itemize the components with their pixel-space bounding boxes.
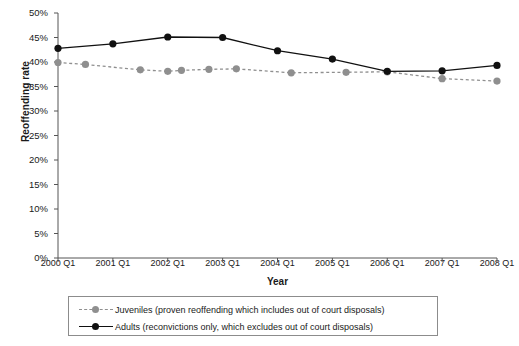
chart-legend: Juveniles (proven reoffending which incl… <box>68 296 438 336</box>
legend-key-adults <box>77 320 115 334</box>
legend-label-juveniles: Juveniles (proven reoffending which incl… <box>115 305 385 315</box>
legend-item-adults: Adults (reconvictions only, which exclud… <box>69 318 437 335</box>
legend-item-juveniles: Juveniles (proven reoffending which incl… <box>69 301 437 318</box>
legend-label-adults: Adults (reconvictions only, which exclud… <box>115 322 373 332</box>
legend-key-juveniles <box>77 303 115 317</box>
